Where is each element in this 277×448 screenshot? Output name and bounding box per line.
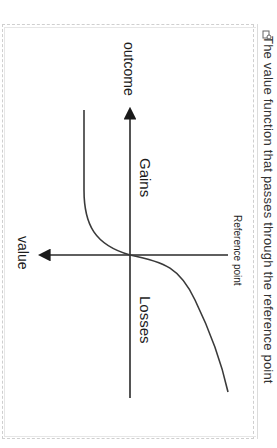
gains-curve: [84, 110, 130, 255]
gains-label: Gains: [137, 158, 154, 197]
expand-icon[interactable]: [262, 30, 272, 40]
reference-point-label: Reference point: [232, 215, 243, 286]
value-axis-label: value: [15, 236, 31, 269]
losses-label: Losses: [137, 296, 154, 344]
figure-caption: The value function that passes through t…: [261, 36, 276, 384]
outcome-axis-label: outcome: [121, 42, 137, 96]
